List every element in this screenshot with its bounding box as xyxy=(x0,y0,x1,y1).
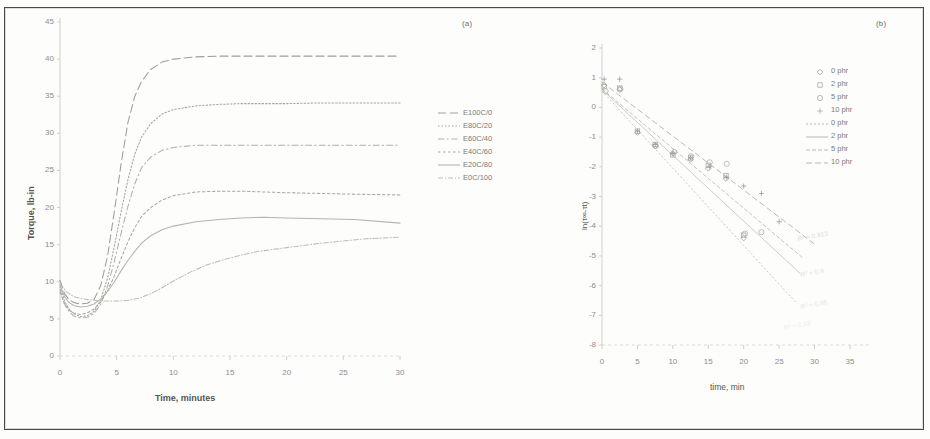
legend-line-swatch xyxy=(438,135,460,143)
legend-label: E0C/100 xyxy=(463,171,492,184)
legend-label: E100C/0 xyxy=(463,106,492,119)
panel-b-legend-item[interactable]: 0 phr xyxy=(806,64,852,77)
panel-b-series-markers xyxy=(603,86,764,236)
legend-label: 10 phr xyxy=(831,103,852,116)
panel-a-series-line xyxy=(60,103,400,317)
legend-marker-swatch xyxy=(806,80,828,88)
panel-a-legend-item[interactable]: E0C/100 xyxy=(438,171,492,184)
panel-b-legend-item[interactable]: 10 phr xyxy=(806,103,852,116)
legend-line-swatch xyxy=(806,132,828,140)
legend-line-swatch xyxy=(806,158,828,166)
legend-label: 5 phr xyxy=(831,90,848,103)
panel-a-legend-item[interactable]: E60C/40 xyxy=(438,132,492,145)
panel-b-legend-item[interactable]: 10 phr xyxy=(806,155,852,168)
legend-line-swatch xyxy=(438,148,460,156)
panel-b-legend-item[interactable]: 5 phr xyxy=(806,90,852,103)
legend-marker-swatch xyxy=(806,93,828,101)
legend-label: E40C/60 xyxy=(463,145,492,158)
panel-a-legend-item[interactable]: E20C/80 xyxy=(438,158,492,171)
legend-marker-swatch xyxy=(806,67,828,75)
panel-b-legend-item[interactable]: 5 phr xyxy=(806,142,852,155)
panel-a-legend[interactable]: E100C/0E80C/20E60C/40E40C/60E20C/80E0C/1… xyxy=(438,106,492,184)
legend-label: 2 phr xyxy=(831,77,848,90)
panel-b-series-markers xyxy=(602,84,746,237)
legend-label: E60C/40 xyxy=(463,132,492,145)
panel-a-legend-item[interactable]: E80C/20 xyxy=(438,119,492,132)
panel-b-trendline xyxy=(602,91,797,303)
panel-b-legend-item[interactable]: 0 phr xyxy=(806,116,852,129)
panel-b-plot-area xyxy=(560,0,930,439)
legend-line-swatch xyxy=(438,122,460,130)
legend-label: 0 phr xyxy=(831,64,848,77)
legend-line-swatch xyxy=(806,119,828,127)
panel-a-legend-item[interactable]: E40C/60 xyxy=(438,145,492,158)
panel-b-trendline xyxy=(602,90,800,274)
legend-line-swatch xyxy=(438,161,460,169)
panel-b-legend-item[interactable]: 2 phr xyxy=(806,129,852,142)
legend-line-swatch xyxy=(438,109,460,117)
figure-root: (a) Torque, lb-in Time, minutes 05101520… xyxy=(0,0,930,439)
panel-a-series-line xyxy=(60,56,400,304)
panel-a-plot-area xyxy=(0,0,470,439)
legend-label: 10 phr xyxy=(831,155,852,168)
legend-label: 0 phr xyxy=(831,116,848,129)
chart-panel-b: ln(τ∞-τt) time, min 210-1-2-3-4-5-6-7-8 … xyxy=(560,0,930,439)
legend-line-swatch xyxy=(806,145,828,153)
panel-a-legend-item[interactable]: E100C/0 xyxy=(438,106,492,119)
panel-b-legend-item[interactable]: 2 phr xyxy=(806,77,852,90)
panel-b-legend[interactable]: 0 phr2 phr5 phr10 phr0 phr2 phr5 phr10 p… xyxy=(806,64,852,168)
panel-a-series-line xyxy=(60,237,400,301)
legend-label: 5 phr xyxy=(831,142,848,155)
panel-a-series-line xyxy=(60,145,400,318)
legend-marker-swatch xyxy=(806,106,828,114)
panel-b-trendline xyxy=(602,89,804,259)
legend-label: 2 phr xyxy=(831,129,848,142)
panel-a-series-line xyxy=(60,191,400,314)
legend-label: E20C/80 xyxy=(463,158,492,171)
legend-label: E80C/20 xyxy=(463,119,492,132)
legend-line-swatch xyxy=(438,174,460,182)
chart-panel-a: Torque, lb-in Time, minutes 051015202530… xyxy=(0,0,470,439)
